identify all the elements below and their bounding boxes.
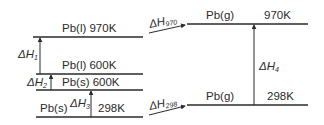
- label-pb-g-970-state: Pb(g): [206, 9, 234, 21]
- label-pb-g-970-temp: 970K: [264, 9, 291, 21]
- label-pb-g-298-state: Pb(g): [206, 90, 234, 102]
- label-pb-l-970: Pb(l) 970K: [62, 22, 117, 34]
- label-dh298: ΔH298: [147, 94, 178, 113]
- label-pb-l-600: Pb(l) 600K: [62, 59, 117, 71]
- svg-text:ΔH970: ΔH970: [147, 12, 178, 31]
- svg-text:ΔH4: ΔH4: [258, 60, 279, 73]
- label-dh4: ΔH4: [258, 60, 279, 73]
- label-dh1: ΔH1: [17, 48, 38, 61]
- label-pb-s-298-state: Pb(s): [40, 102, 68, 114]
- enthalpy-diagram: Pb(l) 970K Pb(l) 600K Pb(s) 600K Pb(s) 2…: [0, 0, 324, 125]
- svg-text:ΔH2: ΔH2: [26, 76, 47, 89]
- label-dh3: ΔH3: [69, 97, 90, 110]
- label-pb-s-298-temp: 298K: [98, 102, 125, 114]
- label-dh2: ΔH2: [26, 76, 47, 89]
- svg-text:ΔH298: ΔH298: [147, 94, 178, 113]
- label-pb-s-600: Pb(s) 600K: [62, 76, 120, 88]
- svg-text:ΔH1: ΔH1: [17, 48, 38, 61]
- label-dh970: ΔH970: [147, 12, 178, 31]
- svg-text:ΔH3: ΔH3: [69, 97, 90, 110]
- label-pb-g-298-temp: 298K: [267, 90, 294, 102]
